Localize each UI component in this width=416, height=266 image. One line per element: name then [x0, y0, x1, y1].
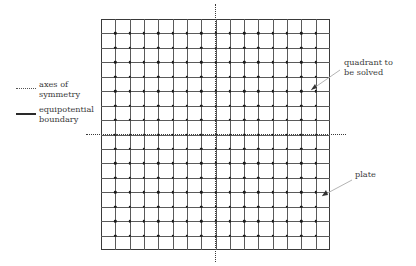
solid-line-icon	[16, 113, 36, 115]
legend-item-axes-of-symmetry: axes of symmetry	[16, 80, 102, 99]
legend-item-label: axes of symmetry	[36, 80, 80, 99]
legend-label-line2: symmetry	[39, 90, 80, 100]
legend: axes of symmetry equipotential boundary	[16, 80, 102, 130]
legend-label-line2: boundary	[39, 115, 94, 125]
annotation-line2: be solved	[344, 68, 410, 78]
diagram-canvas: axes of symmetry equipotential boundary …	[0, 0, 416, 266]
vertical-symmetry-axis	[215, 4, 216, 262]
annotation-line1: plate	[355, 170, 405, 180]
dotted-line-icon	[16, 88, 36, 89]
annotation-quadrant-to-be-solved: quadrant to be solved	[344, 58, 410, 77]
horizontal-symmetry-axis	[86, 134, 346, 135]
legend-item-label: equipotential boundary	[36, 105, 94, 124]
legend-item-equipotential-boundary: equipotential boundary	[16, 105, 102, 124]
annotation-plate: plate	[355, 170, 405, 180]
